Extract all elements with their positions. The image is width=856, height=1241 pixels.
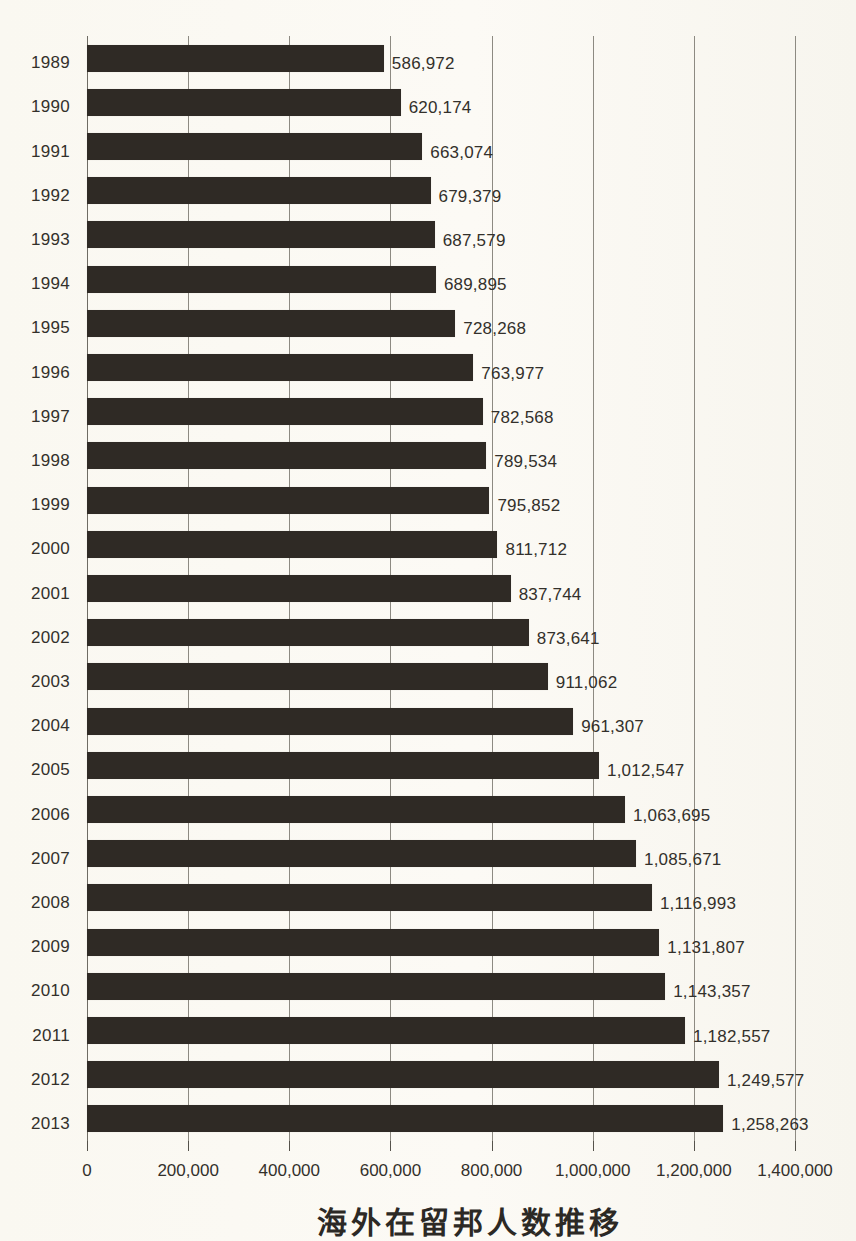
- bar: [87, 840, 636, 867]
- bar: [87, 884, 652, 911]
- bar: [87, 310, 455, 337]
- x-axis-tick-label: 1,400,000: [757, 1161, 833, 1181]
- x-axis-tickmark: [390, 1141, 391, 1151]
- category-label: 1989: [18, 53, 70, 73]
- x-axis-tick-label: 600,000: [360, 1161, 421, 1181]
- bar: [87, 398, 483, 425]
- value-label: 1,085,671: [644, 850, 721, 870]
- bar-chart: 0200,000400,000600,000800,0001,000,0001,…: [0, 0, 856, 1241]
- bar: [87, 708, 573, 735]
- category-label: 2012: [18, 1070, 70, 1090]
- bar: [87, 1061, 719, 1088]
- category-label: 1999: [18, 495, 70, 515]
- category-label: 2004: [18, 716, 70, 736]
- x-axis-tick-label: 800,000: [461, 1161, 522, 1181]
- value-label: 873,641: [537, 629, 600, 649]
- bar: [87, 266, 436, 293]
- category-label: 2009: [18, 937, 70, 957]
- category-label: 2003: [18, 672, 70, 692]
- value-label: 679,379: [439, 187, 502, 207]
- category-label: 1993: [18, 230, 70, 250]
- scanned-page: 0200,000400,000600,000800,0001,000,0001,…: [0, 0, 856, 1241]
- value-label: 837,744: [519, 585, 582, 605]
- category-label: 1996: [18, 363, 70, 383]
- x-axis-tick-label: 1,000,000: [555, 1161, 631, 1181]
- bar: [87, 89, 401, 116]
- x-axis-tick-label: 200,000: [157, 1161, 218, 1181]
- x-axis-tickmark: [188, 1141, 189, 1151]
- value-label: 763,977: [481, 364, 544, 384]
- x-axis-tick-label: 400,000: [259, 1161, 320, 1181]
- value-label: 1,012,547: [607, 761, 684, 781]
- bar: [87, 929, 659, 956]
- value-label: 728,268: [463, 319, 526, 339]
- bar: [87, 1017, 685, 1044]
- category-label: 2008: [18, 893, 70, 913]
- bar: [87, 1105, 723, 1132]
- bar: [87, 973, 665, 1000]
- category-label: 2006: [18, 805, 70, 825]
- category-label: 2011: [18, 1026, 70, 1046]
- x-axis-tickmark: [694, 1141, 695, 1151]
- value-label: 811,712: [505, 540, 567, 560]
- value-label: 911,062: [556, 673, 618, 693]
- x-axis-tickmark: [289, 1141, 290, 1151]
- x-axis-tickmark: [795, 1141, 796, 1151]
- bar: [87, 796, 625, 823]
- chart-title: 海外在留邦人数推移: [0, 1198, 856, 1241]
- category-label: 2001: [18, 584, 70, 604]
- value-label: 1,182,557: [693, 1027, 770, 1047]
- value-label: 663,074: [430, 143, 493, 163]
- x-axis-tickmark: [593, 1141, 594, 1151]
- bar: [87, 221, 435, 248]
- category-label: 1997: [18, 407, 70, 427]
- value-label: 1,249,577: [727, 1071, 804, 1091]
- value-label: 782,568: [491, 408, 554, 428]
- bar: [87, 354, 473, 381]
- value-label: 1,258,263: [731, 1115, 808, 1135]
- x-axis-tickmark: [492, 1141, 493, 1151]
- value-label: 586,972: [392, 54, 455, 74]
- value-label: 1,131,807: [667, 938, 744, 958]
- category-label: 1991: [18, 142, 70, 162]
- bar: [87, 575, 511, 602]
- value-label: 1,116,993: [660, 894, 736, 914]
- value-label: 687,579: [443, 231, 506, 251]
- bar: [87, 663, 548, 690]
- category-label: 2013: [18, 1114, 70, 1134]
- category-label: 2010: [18, 981, 70, 1001]
- value-label: 1,143,357: [673, 982, 750, 1002]
- category-label: 2005: [18, 760, 70, 780]
- x-axis-tick-label: 1,200,000: [656, 1161, 732, 1181]
- bar: [87, 619, 529, 646]
- gridline: [795, 36, 796, 1141]
- category-label: 1994: [18, 274, 70, 294]
- category-label: 2000: [18, 539, 70, 559]
- bar: [87, 177, 431, 204]
- category-label: 2002: [18, 628, 70, 648]
- category-label: 1995: [18, 318, 70, 338]
- value-label: 620,174: [409, 98, 472, 118]
- value-label: 1,063,695: [633, 806, 710, 826]
- category-label: 1992: [18, 186, 70, 206]
- gridline: [694, 36, 695, 1141]
- bar: [87, 531, 497, 558]
- bar: [87, 45, 384, 72]
- value-label: 789,534: [494, 452, 557, 472]
- x-axis-tick-label: 0: [82, 1161, 91, 1181]
- value-label: 795,852: [497, 496, 560, 516]
- x-axis-tickmark: [87, 1141, 88, 1151]
- category-label: 1990: [18, 97, 70, 117]
- bar: [87, 133, 422, 160]
- bar: [87, 442, 486, 469]
- value-label: 961,307: [581, 717, 644, 737]
- category-label: 2007: [18, 849, 70, 869]
- value-label: 689,895: [444, 275, 507, 295]
- bar: [87, 752, 599, 779]
- category-label: 1998: [18, 451, 70, 471]
- bar: [87, 487, 489, 514]
